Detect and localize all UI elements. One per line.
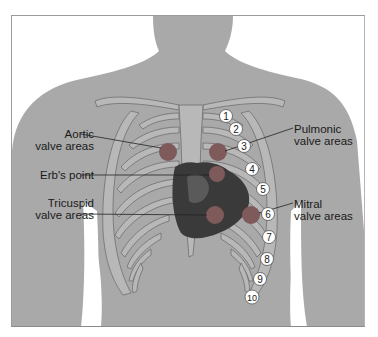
svg-text:5: 5 <box>260 184 266 195</box>
svg-text:7: 7 <box>266 232 272 243</box>
pulmonic-label: Pulmonic valve areas <box>294 123 353 147</box>
aortic-area <box>159 143 177 161</box>
erb-point <box>209 166 225 182</box>
tricuspid-label: Tricuspid valve areas <box>35 197 94 221</box>
svg-text:1: 1 <box>223 111 229 122</box>
aortic-label: Aortic valve areas <box>35 128 94 152</box>
erb-label: Erb's point <box>40 169 94 181</box>
pulmonic-area <box>209 143 227 161</box>
svg-text:9: 9 <box>257 274 263 285</box>
svg-text:4: 4 <box>249 164 255 175</box>
svg-text:3: 3 <box>241 141 247 152</box>
svg-text:8: 8 <box>264 254 270 265</box>
tricuspid-area <box>206 206 224 224</box>
mitral-area <box>242 206 260 224</box>
diagram-frame: 1 2 3 4 5 6 7 8 9 10 Aortic valve areas … <box>11 15 365 327</box>
svg-text:10: 10 <box>247 293 257 303</box>
svg-text:2: 2 <box>233 124 239 135</box>
svg-text:6: 6 <box>265 209 271 220</box>
mitral-label: Mitral valve areas <box>294 198 353 222</box>
